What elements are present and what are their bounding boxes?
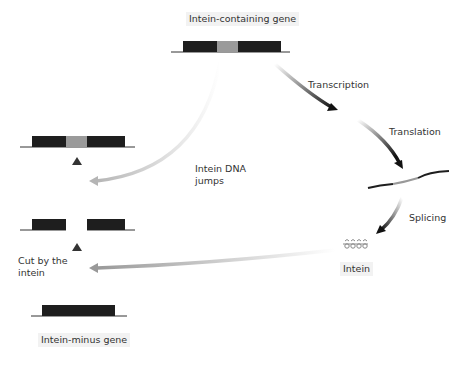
intein-minus-gene-label: Intein-minus gene xyxy=(38,333,130,347)
intein-dna-jumps-line-1: Intein DNA xyxy=(195,163,246,175)
cut-gene-graphic xyxy=(20,219,135,230)
up-arrow-upper xyxy=(72,157,82,208)
cut-by-intein-line-1: Cut by the xyxy=(18,255,68,267)
intein-label: Intein xyxy=(340,262,373,276)
cut-by-intein-arrow xyxy=(89,250,335,273)
intein-containing-gene-graphic xyxy=(171,41,290,52)
intein-protein-icon xyxy=(343,240,368,249)
cut-by-intein-line-2: intein xyxy=(18,267,68,279)
cut-by-intein-label: Cut by the intein xyxy=(18,255,68,279)
up-arrow-lower xyxy=(72,243,82,287)
splicing-arrow xyxy=(376,198,402,234)
intein-dna-jumps-line-2: jumps xyxy=(195,175,246,187)
intein-minus-gene-graphic xyxy=(31,305,127,316)
translation-label: Translation xyxy=(389,126,441,138)
protein-precursor-graphic xyxy=(368,171,449,188)
transcription-label: Transcription xyxy=(308,79,369,91)
repaired-gene-graphic xyxy=(20,136,135,147)
splicing-label: Splicing xyxy=(409,212,446,224)
intein-containing-gene-label: Intein-containing gene xyxy=(186,12,299,26)
intein-dna-jumps-label: Intein DNA jumps xyxy=(195,163,246,187)
